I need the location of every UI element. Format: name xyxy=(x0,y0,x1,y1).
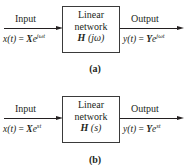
transfer-function-arg: (s) xyxy=(91,122,102,133)
output-eq-equals: = xyxy=(139,124,144,134)
input-arrow-line xyxy=(4,118,59,119)
transfer-function-name: H xyxy=(81,122,89,133)
output-arrowhead-icon xyxy=(177,26,184,30)
linear-network-box: Linear network H (s) xyxy=(62,96,120,143)
output-eq-lhs: y(t) xyxy=(123,124,136,134)
output-eq-lhs: y(t) xyxy=(123,34,136,44)
panel-caption: (b) xyxy=(0,154,190,165)
output-label: Output xyxy=(131,13,159,24)
output-eq-exponent: st xyxy=(156,122,160,129)
input-equation: x(t) = Xest xyxy=(3,122,41,134)
diagram-panel-b: Input x(t) = Xest Linear network H (s) O… xyxy=(0,90,190,165)
box-line-2: network xyxy=(63,21,119,33)
output-arrow-line xyxy=(120,28,180,29)
output-arrowhead-icon xyxy=(177,116,184,120)
output-equation: y(t) = Yest xyxy=(123,122,161,134)
input-label: Input xyxy=(15,103,36,114)
input-arrow-line xyxy=(4,28,59,29)
output-eq-equals: = xyxy=(139,34,144,44)
input-eq-lhs: x(t) xyxy=(3,124,16,134)
diagram-panel-a: Input x(t) = Xejωt Linear network H (jω)… xyxy=(0,0,190,82)
transfer-function: H (jω) xyxy=(63,32,119,44)
output-label: Output xyxy=(131,103,159,114)
box-line-1: Linear xyxy=(63,9,119,21)
input-label: Input xyxy=(15,13,36,24)
transfer-function-name: H xyxy=(78,32,86,43)
transfer-function: H (s) xyxy=(63,122,119,134)
transfer-function-arg: (jω) xyxy=(88,32,105,43)
input-eq-equals: = xyxy=(19,124,24,134)
input-eq-exponent: jωt xyxy=(37,32,45,39)
input-eq-exponent: st xyxy=(37,122,41,129)
linear-network-box: Linear network H (jω) xyxy=(62,6,120,53)
box-line-2: network xyxy=(63,111,119,123)
box-line-1: Linear xyxy=(63,99,119,111)
output-equation: y(t) = Yejωt xyxy=(123,32,165,44)
input-eq-lhs: x(t) xyxy=(3,34,16,44)
panel-caption: (a) xyxy=(0,63,190,74)
output-arrow-line xyxy=(120,118,180,119)
input-eq-equals: = xyxy=(19,34,24,44)
output-eq-exponent: jωt xyxy=(156,32,164,39)
input-equation: x(t) = Xejωt xyxy=(3,32,45,44)
